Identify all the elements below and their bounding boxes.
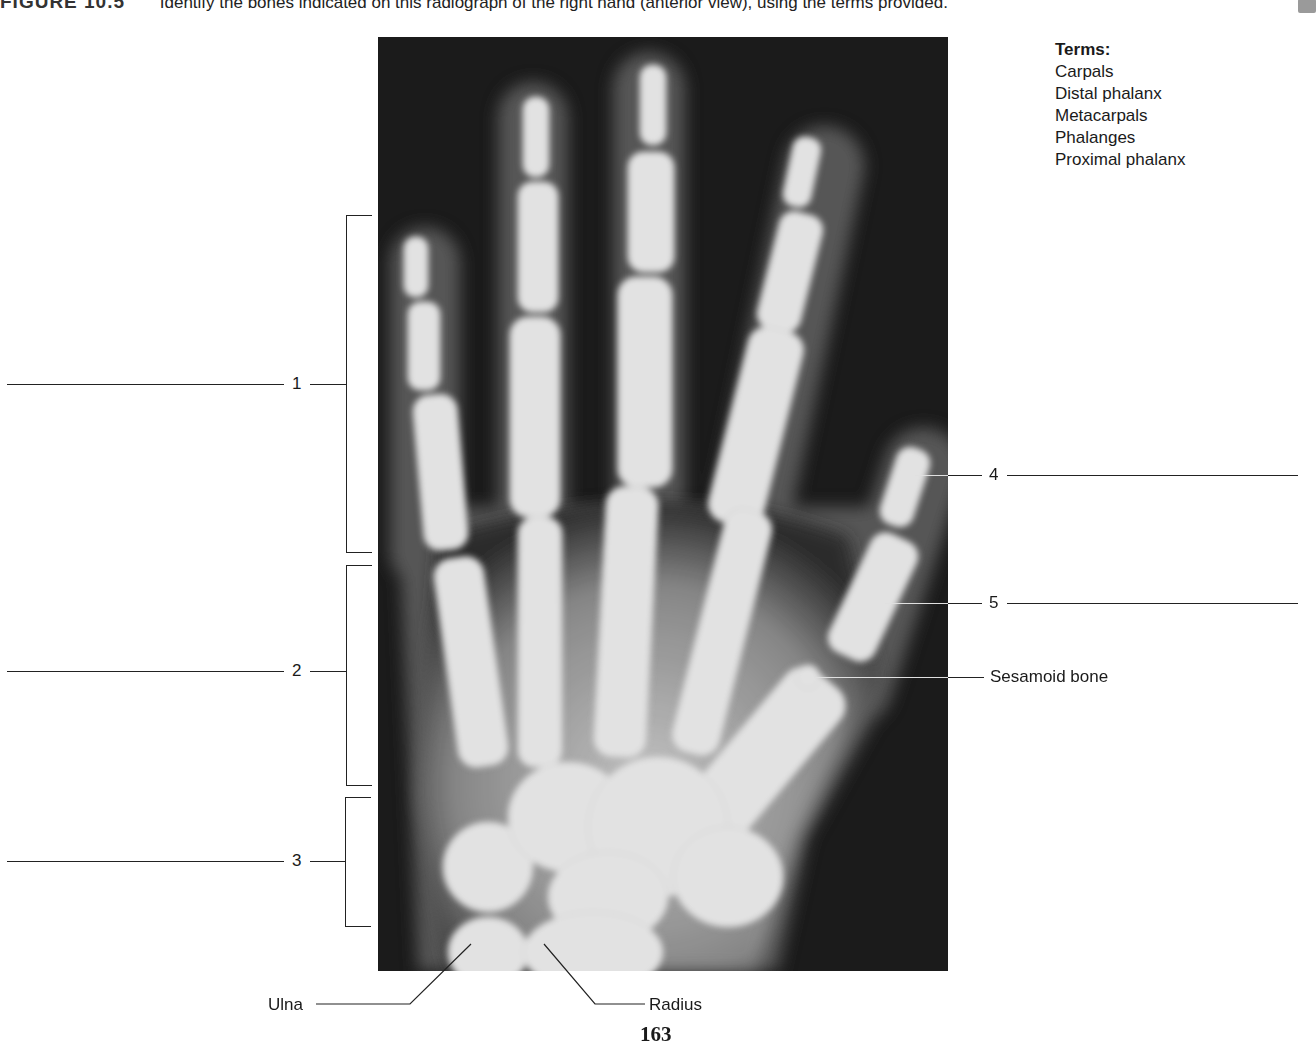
page-number: 163 <box>640 1022 672 1047</box>
callout-number-1: 1 <box>292 374 301 394</box>
leader-line <box>948 677 984 678</box>
figure-instruction: Identify the bones indicated on this rad… <box>160 0 948 12</box>
callout-number-4: 4 <box>989 465 998 485</box>
leader-line <box>310 861 346 862</box>
answer-blank-1[interactable] <box>7 384 284 385</box>
bracket-1-bottom <box>346 552 372 553</box>
term-item: Carpals <box>1055 61 1185 83</box>
hand-radiograph <box>378 37 948 971</box>
bracket-3 <box>345 797 346 926</box>
bracket-2-bottom <box>346 785 372 786</box>
ulna-label: Ulna <box>268 995 303 1015</box>
bracket-2-top <box>346 565 372 566</box>
callout-number-3: 3 <box>292 851 301 871</box>
leader-line <box>948 475 982 476</box>
bracket-3-bottom <box>345 926 371 927</box>
hand-xray-illustration <box>378 37 948 971</box>
term-item: Proximal phalanx <box>1055 149 1185 171</box>
term-item: Metacarpals <box>1055 105 1185 127</box>
answer-blank-5[interactable] <box>1007 603 1298 604</box>
radius-label: Radius <box>649 995 702 1015</box>
answer-blank-3[interactable] <box>7 861 284 862</box>
answer-blank-4[interactable] <box>1007 475 1298 476</box>
leader-line <box>948 603 982 604</box>
bracket-3-top <box>345 797 371 798</box>
figure-badge-icon <box>1298 0 1316 13</box>
figure-caption: FIGURE 10.5 Identify the bones indicated… <box>0 0 1316 11</box>
leader-line <box>815 677 948 678</box>
terms-title: Terms: <box>1055 39 1185 61</box>
leader-line <box>310 671 346 672</box>
bracket-2 <box>346 565 347 785</box>
answer-blank-2[interactable] <box>7 671 284 672</box>
term-item: Phalanges <box>1055 127 1185 149</box>
callout-number-2: 2 <box>292 661 301 681</box>
sesamoid-bone-label: Sesamoid bone <box>990 667 1108 687</box>
leader-line <box>310 384 346 385</box>
callout-number-5: 5 <box>989 593 998 613</box>
terms-list: Terms: Carpals Distal phalanx Metacarpal… <box>1055 39 1185 171</box>
bracket-1 <box>346 215 347 552</box>
figure-label: FIGURE 10.5 <box>0 0 125 12</box>
leader-line <box>885 603 948 604</box>
bracket-1-top <box>346 215 372 216</box>
term-item: Distal phalanx <box>1055 83 1185 105</box>
